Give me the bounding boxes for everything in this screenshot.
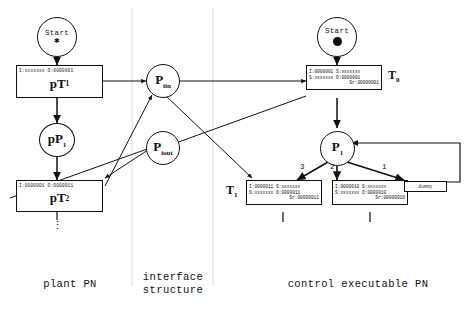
plant-continuation-ellipsis: ⋮ [47,224,67,229]
t1-name-sub: 1 [234,191,238,199]
region-label-plant: plant PN [22,278,118,291]
control-transition-t0[interactable]: I:0000001 S:xxxxxxx S:xxxxxxx O:0000001 … [306,65,382,90]
diagram-canvas: Start ✱ I:xxxxxxx O:0000001 pT1 pP1 I:00… [0,0,467,311]
arc-piout-to-pt2 [105,150,148,178]
arc-weight-left: 3 [300,163,305,171]
dummy-label: dummy [419,184,433,189]
t0-name-sub: 0 [396,76,400,84]
plant-transition-pt2[interactable]: I:0000001 O:0000011 pT2 [16,180,103,212]
region-label-interface: interface structure [136,271,210,297]
region-label-interface-line1: interface [136,271,210,284]
t0-name-label: T0 [388,68,400,84]
pt2-name-sub: 2 [66,194,70,203]
region-label-control: control executable PN [258,278,458,291]
pt1-name: pT1 [17,73,102,98]
pt2-name-text: pT [50,190,66,206]
p1-name-text: P [332,139,340,154]
plant-place-pp1[interactable]: pP1 [39,123,75,157]
t0-name-text: T [388,68,396,82]
arc-t0-to-piout [173,96,306,144]
pp1-label: pP1 [48,132,67,149]
plant-transition-pt1[interactable]: I:xxxxxxx O:0000001 pT1 [16,65,103,98]
piout-label: Piout [153,140,173,157]
pt2-name: pT2 [17,188,102,212]
p1-name-sub: 1 [340,149,344,157]
arc-weight-right: 1 [382,163,387,171]
control-dummy-transition[interactable]: dummy [404,181,447,192]
control-transition-t2[interactable]: I:0000010 S:xxxxxxx S:xxxxxxx O:0000010 … [332,180,408,205]
t1-row3: Sr:00000011 [249,195,319,201]
control-start-place[interactable]: Start [317,17,357,57]
pp1-name-text: pP [48,131,63,146]
interface-place-piout[interactable]: Piout [146,131,180,165]
region-label-interface-line2: structure [136,284,210,297]
t2-row3: Sr:00000010 [335,195,405,201]
t1-name-text: T [226,183,234,197]
p1-label: P1 [332,140,343,157]
arc-dummy-feedback-to-p1 [352,143,460,182]
control-place-p1[interactable]: P1 [320,131,355,166]
start-token-star: ✱ [54,38,59,44]
piout-name-sub: iout [161,148,173,156]
arc-weight-middle: 2 [330,163,335,171]
arc-piin-to-t1 [165,95,252,178]
t0-row3: Sr:00000001 [309,80,379,86]
t1-name-label: T1 [226,183,238,199]
piin-label: Piin [155,73,171,90]
control-transition-t1[interactable]: I:0000011 S:xxxxxxx S:xxxxxxx O:0000011 … [246,180,322,205]
pt1-name-text: pT [50,76,66,92]
piin-name-text: P [155,72,163,87]
control-start-label: Start [325,28,349,36]
arc-pt2-to-piin [105,95,152,186]
pp1-name-sub: 1 [63,140,67,148]
start-token-dot [333,37,342,46]
piout-name-text: P [153,139,161,154]
piin-name-sub: iin [163,81,171,89]
interface-place-piin[interactable]: Piin [146,64,180,98]
plant-start-place[interactable]: Start ✱ [37,17,77,57]
pt1-name-sub: 1 [66,79,70,88]
arc-p1-to-dummy [347,162,404,180]
